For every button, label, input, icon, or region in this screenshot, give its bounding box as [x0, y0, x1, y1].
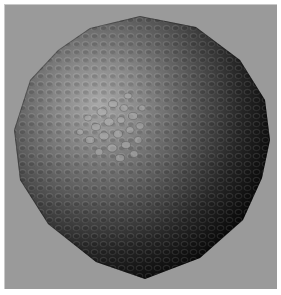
sphere-render: [0, 0, 281, 295]
